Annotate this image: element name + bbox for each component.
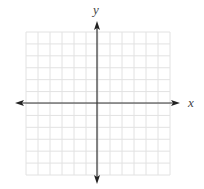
coordinate-plane: x y: [0, 0, 204, 189]
x-axis-label: x: [187, 95, 194, 110]
y-axis-label: y: [91, 2, 99, 17]
